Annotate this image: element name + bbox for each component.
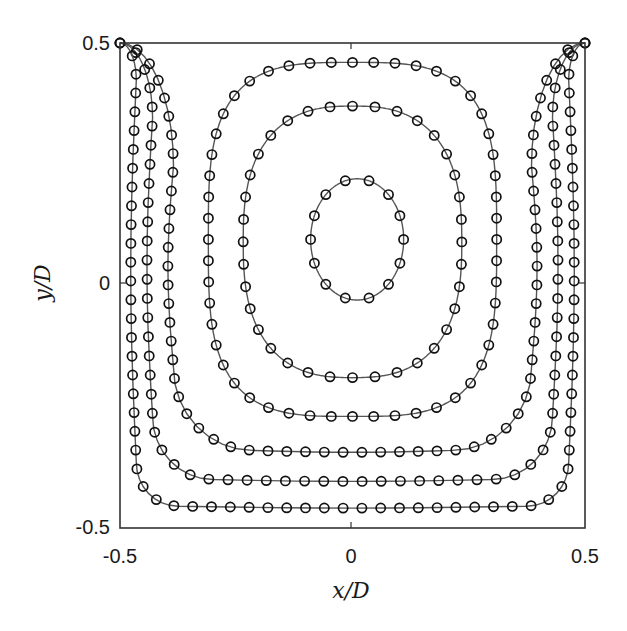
x-tick-label-mid: 0 [345,545,356,567]
x-axis-label: x/D [332,578,370,603]
contour-plot: 0.5 0 -0.5 -0.5 0 0.5 x/D y/D [0,0,627,631]
y-tick-label-top: 0.5 [82,32,110,54]
x-tick-label-left: -0.5 [103,545,137,567]
x-tick-label-right: 0.5 [571,545,599,567]
y-axis-label: y/D [30,264,55,303]
y-tick-label-mid: 0 [99,272,110,294]
y-tick-label-bottom: -0.5 [76,516,110,538]
